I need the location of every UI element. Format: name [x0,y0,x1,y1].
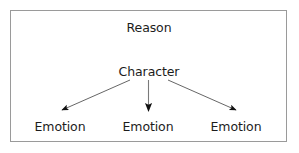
node-label-emotion-right: Emotion [211,120,262,134]
node-label-emotion-left: Emotion [35,120,86,134]
node-label-character: Character [119,65,180,79]
diagram-canvas: Reason Character Emotion Emotion Emotion [0,0,299,153]
node-label-emotion-center: Emotion [123,120,174,134]
node-label-reason: Reason [127,21,172,35]
